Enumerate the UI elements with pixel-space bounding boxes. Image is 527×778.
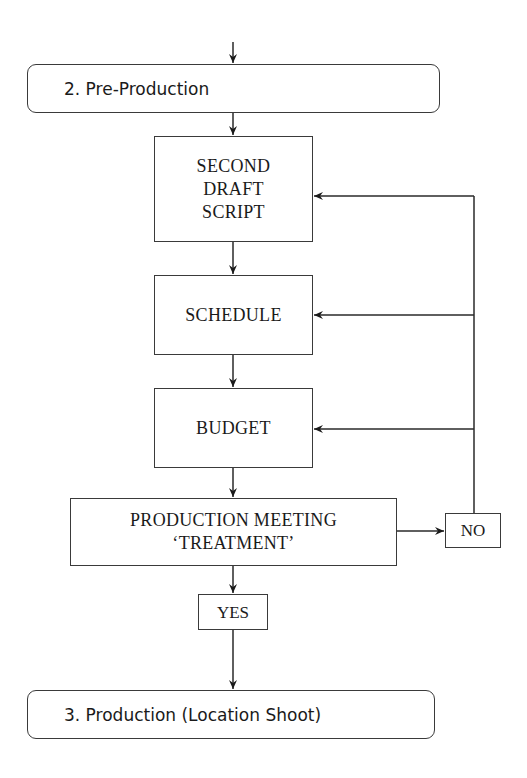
decision-yes-box: YES bbox=[198, 594, 268, 630]
step-budget-label: BUDGET bbox=[196, 417, 271, 440]
step-label-line: SECOND bbox=[197, 155, 271, 178]
decision-yes-label: YES bbox=[217, 602, 249, 623]
step-label-line: SCRIPT bbox=[202, 201, 265, 224]
decision-no-box: NO bbox=[445, 513, 501, 548]
step-second-draft-script-box: SECOND DRAFT SCRIPT bbox=[154, 136, 313, 242]
step-budget-box: BUDGET bbox=[154, 388, 313, 468]
phase-production-box: 3. Production (Location Shoot) bbox=[27, 690, 435, 739]
step-production-meeting-box: PRODUCTION MEETING ‘TREATMENT’ bbox=[70, 498, 397, 566]
phase-production-label: 3. Production (Location Shoot) bbox=[64, 705, 321, 725]
step-label-line: ‘TREATMENT’ bbox=[172, 532, 294, 555]
step-schedule-box: SCHEDULE bbox=[154, 275, 313, 355]
decision-no-label: NO bbox=[461, 520, 486, 541]
step-schedule-label: SCHEDULE bbox=[185, 304, 281, 327]
step-label-line: PRODUCTION MEETING bbox=[130, 509, 337, 532]
step-label-line: DRAFT bbox=[203, 178, 264, 201]
flowchart: 2. Pre-Production SECOND DRAFT SCRIPT SC… bbox=[0, 0, 527, 778]
phase-pre-production-label: 2. Pre-Production bbox=[64, 79, 209, 99]
phase-pre-production-box: 2. Pre-Production bbox=[27, 64, 440, 113]
